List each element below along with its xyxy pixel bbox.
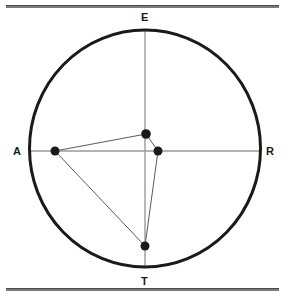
circle-diagram [0, 0, 285, 304]
vertex-label-r: R [266, 146, 274, 157]
point-bottom [141, 242, 150, 251]
vertex-label-e: E [141, 12, 149, 23]
point-left [51, 147, 60, 156]
vertex-label-a: A [13, 146, 21, 157]
vertex-label-t: T [141, 276, 148, 287]
point-center-right [154, 147, 163, 156]
point-center-top [141, 129, 151, 139]
diagram-page: E A R T [0, 0, 285, 304]
